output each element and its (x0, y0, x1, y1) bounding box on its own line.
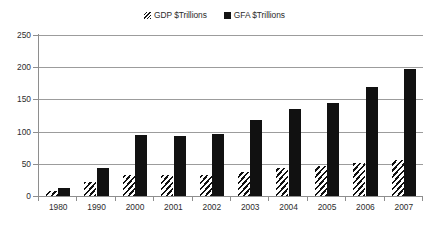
x-axis-tick-label: 2003 (231, 203, 269, 211)
bar-chart-figure: GDP $Trillions GFA $Trillions 0501001502… (0, 0, 429, 233)
x-axis-tick (384, 197, 385, 201)
bar-gdp (200, 175, 212, 196)
bar-gfa (366, 87, 378, 196)
y-axis-tick-label: 250 (0, 31, 31, 39)
bar-gfa (212, 134, 224, 196)
bar-group (385, 35, 423, 196)
y-axis-tick-label: 150 (0, 95, 31, 103)
bar-group (77, 35, 115, 196)
x-axis-tick (153, 197, 154, 201)
y-axis-tick (33, 132, 38, 133)
y-axis-tick (33, 35, 38, 36)
y-axis-tick (33, 99, 38, 100)
x-axis-tick (192, 197, 193, 201)
bar-gdp (161, 175, 173, 196)
bar-group (308, 35, 346, 196)
bar-group (269, 35, 307, 196)
legend-label-gfa: GFA $Trillions (234, 11, 285, 19)
solid-square-swatch-icon (224, 12, 231, 19)
bar-gfa (289, 109, 301, 196)
x-axis-tick (268, 197, 269, 201)
y-axis-tick (33, 164, 38, 165)
bar-gfa (404, 69, 416, 197)
y-axis-tick (33, 67, 38, 68)
legend-item-gdp: GDP $Trillions (144, 11, 207, 19)
bar-gfa (97, 168, 109, 196)
x-axis-tick (76, 197, 77, 201)
x-axis-tick-label: 2004 (269, 203, 307, 211)
x-axis-tick (230, 197, 231, 201)
bar-group (154, 35, 192, 196)
y-axis-tick-label: 200 (0, 63, 31, 71)
bar-gfa (58, 188, 70, 196)
bars-layer (39, 35, 423, 196)
x-axis-tick (345, 197, 346, 201)
x-axis-tick (422, 197, 423, 201)
bar-gdp (238, 172, 250, 196)
bar-gdp (276, 168, 288, 196)
bar-gfa (135, 135, 147, 196)
x-axis-tick (38, 197, 39, 201)
y-axis-tick (33, 196, 38, 197)
bar-gdp (315, 166, 327, 196)
x-axis-tick-label: 2007 (385, 203, 423, 211)
bar-gdp (84, 182, 96, 196)
x-axis-tick (307, 197, 308, 201)
x-axis-tick-label: 2002 (193, 203, 231, 211)
hatched-square-swatch-icon (144, 12, 151, 19)
bar-group (116, 35, 154, 196)
x-axis-tick-label: 2001 (154, 203, 192, 211)
x-axis-tick-label: 2006 (346, 203, 384, 211)
bar-gdp (46, 191, 58, 196)
x-axis-tick-label: 1980 (39, 203, 77, 211)
legend-label-gdp: GDP $Trillions (154, 11, 207, 19)
bar-group (193, 35, 231, 196)
bar-group (346, 35, 384, 196)
legend-item-gfa: GFA $Trillions (224, 11, 285, 19)
bar-group (231, 35, 269, 196)
bar-gdp (392, 160, 404, 196)
bar-gfa (174, 136, 186, 196)
x-axis-tick-label: 1990 (77, 203, 115, 211)
chart-legend: GDP $Trillions GFA $Trillions (0, 7, 429, 23)
x-axis-tick-label: 2000 (116, 203, 154, 211)
y-axis-tick-label: 0 (0, 192, 31, 200)
bar-gdp (123, 175, 135, 196)
y-axis-labels: 050100150200250 (0, 0, 31, 233)
bar-group (39, 35, 77, 196)
x-axis-tick-label: 2005 (308, 203, 346, 211)
bar-gdp (353, 163, 365, 196)
bar-gfa (327, 103, 339, 196)
bar-gfa (250, 120, 262, 196)
y-axis-tick-label: 50 (0, 160, 31, 168)
x-axis-tick (115, 197, 116, 201)
y-axis-tick-label: 100 (0, 128, 31, 136)
